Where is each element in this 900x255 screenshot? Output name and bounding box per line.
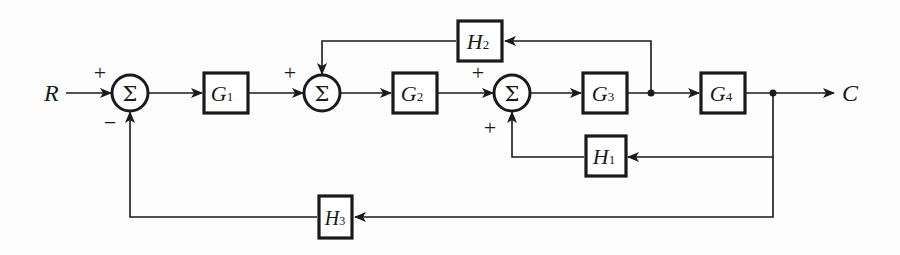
sum2-plus-sign-left: + (284, 60, 296, 85)
summing-junction-2: Σ + (284, 60, 340, 111)
block-g4: G4 (701, 73, 745, 113)
block-g3: G3 (583, 73, 627, 113)
summing-junction-3: Σ + + (472, 60, 530, 140)
block-name: H (466, 29, 484, 54)
block-subscript: 3 (339, 214, 345, 228)
sum3-plus-sign-bottom: + (484, 115, 496, 140)
sum3-plus-sign-top: + (472, 60, 484, 85)
input-label: R (43, 80, 59, 106)
summing-junction-1: Σ + − (94, 60, 148, 135)
wire-h3-to-sum1 (130, 112, 317, 217)
wire-c-to-h3 (355, 157, 773, 217)
block-subscript: 4 (726, 89, 733, 104)
block-subscript: 2 (417, 89, 424, 104)
wire-h2-to-sum2 (322, 41, 456, 74)
block-diagram: R C Σ + − Σ + Σ + + G1 G2 G3 G4 H1 (0, 0, 900, 255)
block-name: G (211, 81, 227, 106)
block-name: G (401, 81, 417, 106)
block-g2: G2 (393, 73, 437, 113)
sum1-plus-sign: + (94, 60, 106, 85)
block-subscript: 3 (608, 89, 615, 104)
block-g1: G1 (204, 73, 248, 113)
block-h1: H1 (586, 136, 626, 176)
block-name: G (592, 81, 608, 106)
block-h3: H3 (319, 196, 352, 238)
sum1-minus-sign: − (104, 110, 116, 135)
block-subscript: 1 (227, 89, 234, 104)
block-h2: H2 (458, 21, 502, 61)
block-subscript: 2 (483, 37, 490, 52)
block-name: H (324, 207, 341, 229)
sigma-symbol: Σ (315, 82, 330, 106)
wire-h1-to-sum3 (512, 112, 584, 157)
sigma-symbol: Σ (505, 82, 520, 106)
sigma-symbol: Σ (123, 82, 138, 106)
block-name: H (592, 144, 610, 169)
block-subscript: 1 (609, 152, 616, 167)
pickoff-point-g3 (648, 90, 655, 97)
pickoff-point-output (770, 90, 777, 97)
block-name: G (710, 81, 726, 106)
output-label: C (842, 80, 859, 106)
feedback-paths (130, 41, 773, 217)
